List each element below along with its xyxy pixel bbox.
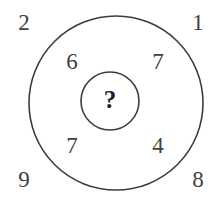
ring-number-bottom-right: 4 — [146, 134, 170, 157]
ring-number-bottom-left: 7 — [60, 134, 84, 157]
outer-number-bottom-left: 9 — [12, 168, 36, 191]
center-question-mark: ? — [98, 87, 122, 112]
outer-number-top-left: 2 — [12, 11, 36, 34]
ring-number-top-left: 6 — [60, 50, 84, 73]
outer-number-bottom-right: 8 — [186, 168, 210, 191]
outer-number-top-right: 1 — [186, 11, 210, 34]
puzzle-figure: 2 1 9 8 6 7 7 4 ? — [0, 0, 214, 207]
ring-number-top-right: 7 — [146, 50, 170, 73]
